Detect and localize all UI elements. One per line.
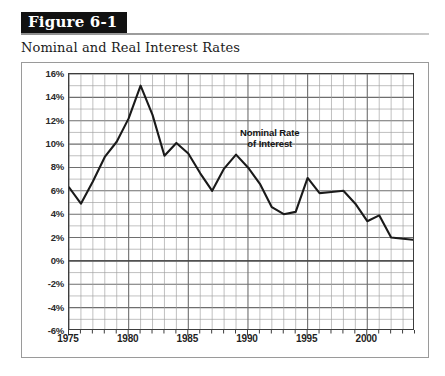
y-tick-label: -4% (48, 301, 64, 312)
y-tick-label: 0% (51, 254, 64, 265)
y-axis-labels: 16%14%12%10%8%6%4%2%0%-2%-4%-6% (26, 73, 64, 330)
y-tick-label: 8% (51, 161, 64, 172)
x-tick-label: 2000 (356, 333, 377, 344)
nominal-rate-line-series (69, 74, 414, 330)
annotation-line-1: Nominal Rate (240, 127, 300, 138)
y-tick-label: 6% (51, 184, 64, 195)
header-divider-rule (21, 33, 429, 35)
y-tick-label: -2% (48, 278, 64, 289)
x-tick-label: 1980 (117, 333, 138, 344)
y-tick-label: 12% (46, 114, 64, 125)
y-tick-label: 10% (46, 138, 64, 149)
y-tick-label: 14% (46, 91, 64, 102)
figure-subtitle: Nominal and Real Interest Rates (21, 40, 240, 55)
x-tick-label: 1990 (236, 333, 257, 344)
y-tick-label: 16% (46, 68, 64, 79)
x-tick-label: 1975 (57, 333, 78, 344)
y-tick-label: 4% (51, 208, 64, 219)
plot-area (68, 73, 414, 330)
nominal-rate-annotation: Nominal Rate of Interest (240, 127, 300, 149)
figure-header: Figure 6-1 (21, 12, 429, 34)
y-tick-label: 2% (51, 231, 64, 242)
x-tick-label: 1995 (296, 333, 317, 344)
x-axis-labels: 197519801985199019952000 (68, 333, 414, 351)
figure-number-banner: Figure 6-1 (21, 12, 127, 33)
x-tick-label: 1985 (177, 333, 198, 344)
annotation-line-2: of Interest (240, 138, 300, 149)
